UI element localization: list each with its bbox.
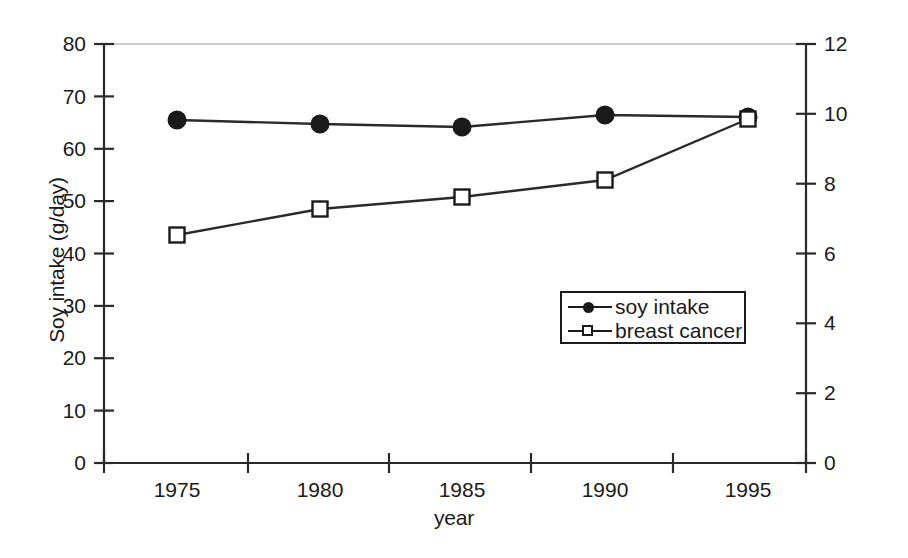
legend-label-soy-intake: soy intake — [615, 297, 710, 317]
x-tick-label-1990: 1990 — [560, 478, 650, 502]
x-tick-label-1980: 1980 — [275, 478, 365, 502]
filled-circle-marker-icon — [568, 297, 612, 317]
legend-item-breast-cancer: breast cancer — [568, 319, 742, 343]
y-tick-label-left-0: 0 — [26, 451, 86, 475]
open-square-marker-icon — [568, 321, 612, 341]
series-markers-soy-intake — [168, 106, 758, 137]
y-tick-label-right-8: 8 — [824, 172, 884, 196]
y-tick-label-right-12: 12 — [824, 32, 884, 56]
legend-item-soy-intake: soy intake — [568, 295, 710, 319]
y-tick-label-right-10: 10 — [824, 102, 884, 126]
y-tick-label-right-2: 2 — [824, 381, 884, 405]
x-axis-title: year — [0, 506, 908, 530]
x-tick-label-1985: 1985 — [417, 478, 507, 502]
y-axis-left-title: Soy intake (g/day) — [45, 95, 69, 425]
y-tick-label-right-0: 0 — [824, 451, 884, 475]
legend-label-breast-cancer: breast cancer — [615, 321, 742, 341]
x-tick-label-1975: 1975 — [132, 478, 222, 502]
x-tick-label-1995: 1995 — [703, 478, 793, 502]
chart-canvas — [0, 0, 908, 558]
y-tick-label-right-6: 6 — [824, 242, 884, 266]
chart-legend: soy intake breast cancer — [560, 291, 746, 344]
y-tick-label-left-80: 80 — [26, 32, 86, 56]
y-tick-label-right-4: 4 — [824, 311, 884, 335]
